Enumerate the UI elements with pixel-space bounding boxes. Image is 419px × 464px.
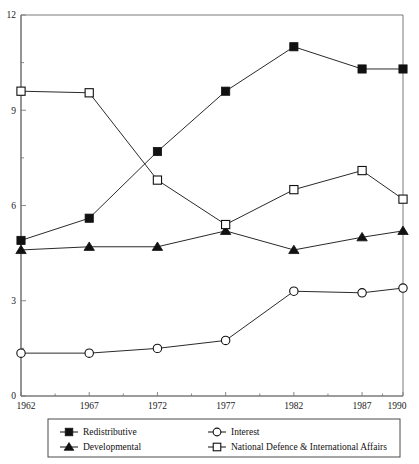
marker-filled-square <box>85 214 93 222</box>
marker-filled-square <box>358 65 366 73</box>
legend-item-label: Interest <box>231 427 260 437</box>
x-tick-label: 1962 <box>17 401 36 411</box>
marker-open-circle <box>213 428 221 436</box>
series-national-defence-international-affairs <box>17 87 407 229</box>
data-series-group <box>16 43 408 358</box>
marker-open-square <box>290 186 298 194</box>
series-polyline <box>21 288 403 353</box>
marker-filled-square <box>17 236 25 244</box>
line-chart: 036912 1962196719721977198219871990 Redi… <box>0 0 419 464</box>
marker-filled-square <box>399 65 407 73</box>
x-tick-label: 1967 <box>80 401 99 411</box>
x-tick-label: 1972 <box>148 401 167 411</box>
x-tick-label: 1990 <box>388 401 407 411</box>
marker-open-square <box>85 89 93 97</box>
marker-filled-square <box>290 43 298 51</box>
y-tick-label: 12 <box>7 10 17 20</box>
legend-item-national-defence-international-affairs[interactable]: National Defence & International Affairs <box>208 442 387 452</box>
marker-open-circle <box>290 287 298 295</box>
plot-frame <box>21 15 403 396</box>
marker-open-square <box>358 166 366 174</box>
marker-filled-triangle <box>84 242 94 250</box>
chart-canvas: 036912 1962196719721977198219871990 Redi… <box>0 0 419 464</box>
marker-open-circle <box>153 344 161 352</box>
y-tick-label: 6 <box>11 201 16 211</box>
marker-open-square <box>153 176 161 184</box>
marker-filled-square <box>65 428 73 436</box>
legend-item-label: Developmental <box>83 442 141 452</box>
axis-ticks <box>21 15 403 396</box>
y-tick-label: 9 <box>11 106 16 116</box>
series-polyline <box>21 47 403 241</box>
y-tick-label: 3 <box>11 296 16 306</box>
marker-open-circle <box>358 289 366 297</box>
marker-open-square <box>17 87 25 95</box>
marker-open-circle <box>399 284 407 292</box>
y-tick-label: 0 <box>11 391 16 401</box>
series-interest <box>17 284 407 357</box>
marker-open-circle <box>85 349 93 357</box>
x-axis-tick-labels: 1962196719721977198219871990 <box>17 401 407 411</box>
marker-open-square <box>399 195 407 203</box>
x-tick-label: 1977 <box>216 401 235 411</box>
legend-item-redistributive[interactable]: Redistributive <box>60 427 137 437</box>
marker-filled-triangle <box>398 226 408 234</box>
legend-item-interest[interactable]: Interest <box>208 427 260 437</box>
marker-open-square <box>222 220 230 228</box>
series-polyline <box>21 231 403 250</box>
series-polyline <box>21 91 403 224</box>
legend-item-label: National Defence & International Affairs <box>231 442 387 452</box>
y-axis-tick-labels: 036912 <box>7 10 17 401</box>
marker-filled-square <box>222 87 230 95</box>
chart-legend: RedistributiveInterestDevelopmentalNatio… <box>48 419 400 457</box>
legend-item-label: Redistributive <box>83 427 137 437</box>
marker-filled-square <box>153 147 161 155</box>
x-tick-label: 1982 <box>284 401 303 411</box>
series-redistributive <box>17 43 407 245</box>
x-tick-label: 1987 <box>353 401 372 411</box>
series-developmental <box>16 226 408 253</box>
marker-open-circle <box>221 336 229 344</box>
marker-open-circle <box>17 349 25 357</box>
marker-open-square <box>213 443 221 451</box>
